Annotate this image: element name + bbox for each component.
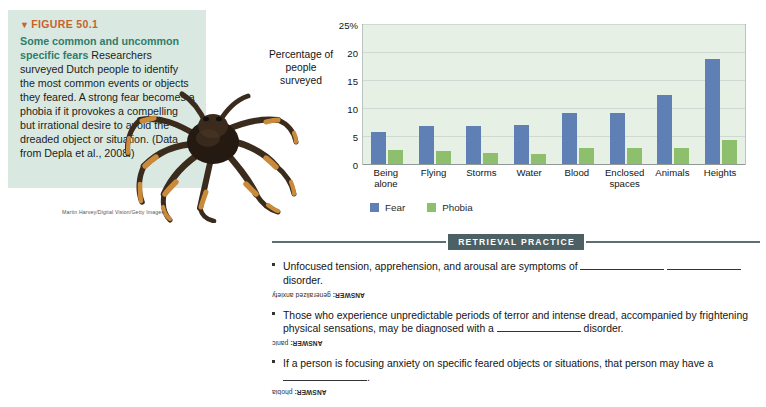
rule-left [272,241,446,243]
question-text: disorder. [581,323,624,334]
x-axis-label: Heights [696,167,744,189]
retrieval-question: If a person is focusing anxiety on speci… [272,357,760,385]
y-tick-0: 0 [324,159,358,170]
bullet-icon [272,360,275,363]
retrieval-practice-header: RETRIEVAL PRACTICE [272,234,760,250]
bar-group [650,25,698,165]
photo-credit: Martin Harvey/Digital Vision/Getty Image… [62,209,292,215]
y-axis-ticks: 0510152025% [320,24,358,164]
triangle-down-icon: ▼ [20,21,29,31]
figure-number-label: FIGURE 50.1 [31,18,98,30]
x-axis-label: Animals [649,167,697,189]
x-axis-labels: BeingaloneFlyingStormsWaterBloodEnclosed… [362,167,744,189]
question-text: If a person is focusing anxiety on speci… [283,358,713,369]
legend-item-fear: Fear [370,202,405,213]
legend-item-phobia: Phobia [427,202,473,213]
bar-group [411,25,459,165]
x-axis-label: Water [505,167,553,189]
x-axis-label: Flying [410,167,458,189]
y-tick-10: 10 [324,103,358,114]
bar-group [554,25,602,165]
bar-group [506,25,554,165]
answer-blank [283,380,367,381]
retrieval-question: Unfocused tension, apprehension, and aro… [272,260,760,288]
bar-fear [657,95,672,165]
figure-body-text: Researchers surveyed Dutch people to ide… [20,49,195,159]
retrieval-practice-section: RETRIEVAL PRACTICE Unfocused tension, ap… [272,234,760,396]
retrieval-practice-badge: RETRIEVAL PRACTICE [448,234,584,250]
y-tick-15: 15 [324,75,358,86]
x-axis-label: Blood [553,167,601,189]
bar-phobia [627,148,642,165]
rule-right [586,241,760,243]
retrieval-question: Those who experience unpredictable perio… [272,309,760,337]
figure-caption-panel: ▼FIGURE 50.1 Some common and uncommon sp… [8,10,206,188]
y-tick-25%: 25% [324,19,358,30]
answer-blank [667,269,741,270]
bar-phobia [579,148,594,165]
question-text: Unfocused tension, apprehension, and aro… [283,261,580,272]
figure-caption-text: Some common and uncommon specific fears … [20,34,195,160]
bar-groups [363,25,745,165]
bar-fear [705,59,720,165]
answer-inverted: ANSWER: panic [272,340,760,347]
bar-fear [466,126,481,165]
question-text [664,261,667,272]
bar-fear [610,113,625,165]
answer-inverted: ANSWER: phobia [272,389,760,396]
figure-number: ▼FIGURE 50.1 [20,19,195,31]
retrieval-practice-questions: Unfocused tension, apprehension, and aro… [272,260,760,396]
plot-area [362,24,746,165]
bar-group [363,25,411,165]
bullet-icon [272,312,275,315]
answer-blank [497,331,581,332]
bar-fear [419,126,434,165]
x-axis-label: Beingalone [362,167,410,189]
question-text: disorder. [283,275,323,286]
fears-bar-chart: Percentage of people surveyed 0510152025… [262,12,762,210]
legend-label-fear: Fear [385,202,405,213]
chart-legend: Fear Phobia [370,202,473,213]
legend-label-phobia: Phobia [442,202,473,213]
legend-swatch-phobia [427,203,436,212]
question-text: . [367,372,370,383]
bar-fear [514,125,529,165]
bar-group [459,25,507,165]
x-axis-line [363,164,745,165]
x-axis-label: Storms [458,167,506,189]
bar-fear [562,113,577,165]
bullet-icon [272,263,275,266]
bar-fear [371,132,386,165]
y-tick-5: 5 [324,131,358,142]
bar-phobia [722,140,737,165]
x-axis-label: Enclosedspaces [601,167,649,189]
answer-inverted: ANSWER: generalized anxiety [272,292,760,299]
bar-group [697,25,745,165]
answer-blank [580,269,664,270]
bar-group [602,25,650,165]
bar-phobia [674,148,689,165]
legend-swatch-fear [370,203,379,212]
y-tick-20: 20 [324,47,358,58]
